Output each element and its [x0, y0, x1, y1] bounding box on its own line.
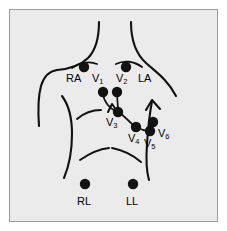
label-v6: V6	[158, 128, 170, 139]
label-v5: V5	[144, 138, 156, 149]
label-v1: V1	[92, 73, 104, 84]
label-ll: LL	[126, 196, 138, 207]
label-v3: V3	[106, 117, 118, 128]
figure-frame	[9, 9, 218, 222]
ecg-electrode-placement-figure: RA V1 V2 LA V3 V4 V5 V6 RL LL	[0, 0, 227, 231]
label-rl: RL	[77, 196, 91, 207]
label-v4: V4	[128, 133, 140, 144]
label-v2: V2	[116, 73, 128, 84]
label-la: LA	[138, 73, 151, 84]
label-ra: RA	[66, 73, 81, 84]
